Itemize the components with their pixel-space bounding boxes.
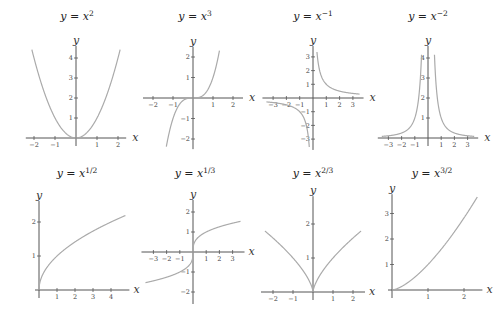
y-axis-label: y bbox=[424, 34, 432, 47]
x-tick-label: 2 bbox=[217, 255, 221, 263]
x-tick-label: −3 bbox=[384, 141, 394, 149]
function-curve bbox=[39, 216, 125, 290]
y-tick-label: 4 bbox=[69, 54, 73, 62]
plot-4: y = x−2xy−3−2−11231234 bbox=[378, 9, 491, 149]
x-tick-label: −1 bbox=[50, 141, 60, 149]
x-tick-label: −2 bbox=[162, 255, 172, 263]
x-tick-label: 1 bbox=[55, 293, 59, 301]
plot-1: y = x2xy−2−1121234 bbox=[26, 9, 139, 149]
y-tick-label: 3 bbox=[385, 210, 389, 218]
x-tick-label: −1 bbox=[168, 101, 178, 109]
plot-title: y = x3 bbox=[177, 9, 212, 23]
y-axis-label: y bbox=[72, 34, 80, 47]
y-tick-label: 1 bbox=[306, 254, 310, 262]
x-tick-label: 1 bbox=[331, 295, 335, 303]
x-tick-label: 2 bbox=[73, 293, 77, 301]
plot-title: y = x1/2 bbox=[56, 166, 98, 180]
y-axis-label: y bbox=[189, 35, 197, 48]
y-tick-label: 1 bbox=[306, 81, 310, 89]
plot-title: y = x2 bbox=[59, 9, 94, 23]
x-tick-label: 4 bbox=[109, 293, 113, 301]
plot-6: y = x1/3xy−3−2−1123−2−112 bbox=[141, 166, 255, 304]
x-axis-label: x bbox=[249, 245, 256, 258]
plot-3: y = x−1xy−3−2−1123−3−2−1123 bbox=[262, 9, 376, 150]
y-tick-label: 3 bbox=[69, 74, 73, 82]
x-axis-label: x bbox=[132, 131, 139, 144]
x-tick-label: 2 bbox=[452, 141, 456, 149]
y-tick-label: 2 bbox=[306, 67, 310, 75]
x-tick-label: −1 bbox=[288, 295, 298, 303]
y-tick-label: −2 bbox=[180, 135, 190, 143]
plot-title: y = x−1 bbox=[292, 9, 333, 23]
x-tick-label: 2 bbox=[462, 293, 466, 301]
y-tick-label: 1 bbox=[421, 114, 425, 122]
plot-7: y = x2/3xy−2−11212 bbox=[261, 166, 376, 303]
power-functions-figure: y = x2xy−2−1121234y = x3xy−2−112−2−112y … bbox=[0, 0, 503, 323]
x-tick-label: 2 bbox=[338, 101, 342, 109]
y-tick-label: −1 bbox=[180, 115, 190, 123]
x-tick-label: 2 bbox=[231, 101, 235, 109]
x-tick-label: 1 bbox=[439, 141, 443, 149]
x-tick-label: −2 bbox=[268, 295, 278, 303]
plot-5: y = x1/2xy123412 bbox=[32, 166, 141, 301]
y-tick-label: 2 bbox=[69, 94, 73, 102]
x-axis-label: x bbox=[369, 285, 376, 298]
y-tick-label: 3 bbox=[421, 74, 425, 82]
x-tick-label: 1 bbox=[211, 101, 215, 109]
plot-2: y = x3xy−2−112−2−112 bbox=[143, 9, 256, 149]
x-axis-label: x bbox=[486, 283, 493, 296]
y-tick-label: 1 bbox=[385, 261, 389, 269]
y-tick-label: 2 bbox=[306, 220, 310, 228]
function-curve bbox=[382, 55, 422, 137]
y-axis-label: y bbox=[309, 34, 317, 47]
y-tick-label: 1 bbox=[32, 252, 36, 260]
plot-8: y = x3/2xy12123 bbox=[385, 166, 494, 301]
x-tick-label: −2 bbox=[29, 141, 39, 149]
function-curve bbox=[434, 55, 474, 137]
y-axis-label: y bbox=[35, 189, 43, 202]
y-tick-label: 2 bbox=[186, 53, 190, 61]
y-tick-label: 2 bbox=[32, 218, 36, 226]
function-curve bbox=[317, 52, 360, 94]
x-tick-label: −3 bbox=[149, 255, 159, 263]
plot-title: y = x−2 bbox=[407, 9, 448, 23]
y-axis-label: y bbox=[189, 188, 197, 201]
x-tick-label: 3 bbox=[466, 141, 470, 149]
function-curve bbox=[392, 197, 477, 290]
x-tick-label: 2 bbox=[116, 141, 120, 149]
x-tick-label: 3 bbox=[231, 255, 235, 263]
x-axis-label: x bbox=[370, 91, 377, 104]
x-tick-label: 2 bbox=[351, 295, 355, 303]
plot-title: y = x1/3 bbox=[174, 166, 216, 180]
x-axis-label: x bbox=[484, 131, 491, 144]
x-axis-label: x bbox=[133, 283, 140, 296]
y-axis-label: y bbox=[388, 182, 396, 195]
x-tick-label: 3 bbox=[351, 101, 355, 109]
x-tick-label: 1 bbox=[324, 101, 328, 109]
x-axis-label: x bbox=[249, 91, 256, 104]
plot-title: y = x2/3 bbox=[292, 166, 334, 180]
y-tick-label: 1 bbox=[186, 228, 190, 236]
x-tick-label: 1 bbox=[426, 293, 430, 301]
y-tick-label: 2 bbox=[186, 208, 190, 216]
x-tick-label: 1 bbox=[95, 141, 99, 149]
x-tick-label: −2 bbox=[148, 101, 158, 109]
y-tick-label: 1 bbox=[186, 74, 190, 82]
x-tick-label: −1 bbox=[175, 255, 185, 263]
x-tick-label: −2 bbox=[397, 141, 407, 149]
y-tick-label: 2 bbox=[421, 94, 425, 102]
x-tick-label: 1 bbox=[204, 255, 208, 263]
y-tick-label: 2 bbox=[385, 235, 389, 243]
y-tick-label: 3 bbox=[306, 53, 310, 61]
y-tick-label: −2 bbox=[180, 288, 190, 296]
y-axis-label: y bbox=[309, 184, 317, 197]
plot-title: y = x3/2 bbox=[411, 166, 453, 180]
y-tick-label: 1 bbox=[69, 114, 73, 122]
x-tick-label: 3 bbox=[91, 293, 95, 301]
x-tick-label: −1 bbox=[410, 141, 420, 149]
